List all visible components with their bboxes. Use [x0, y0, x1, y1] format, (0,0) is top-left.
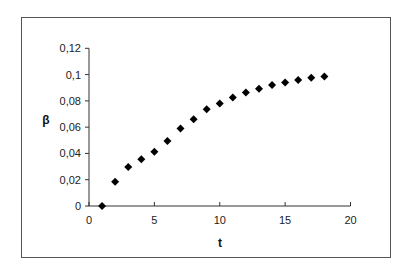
x-tick-label: 0 [86, 214, 92, 226]
y-tick-label: 0,08 [60, 95, 81, 107]
y-tick-label: 0,04 [60, 147, 81, 159]
data-points [98, 72, 328, 210]
diamond-marker [268, 81, 276, 89]
diamond-marker [216, 99, 224, 107]
diamond-marker [307, 74, 315, 82]
diamond-marker [190, 115, 198, 123]
diamond-marker [242, 88, 250, 96]
x-tick-label: 15 [279, 214, 291, 226]
y-tick-label: 0,12 [60, 42, 81, 54]
diamond-marker [255, 85, 263, 93]
diamond-marker [137, 155, 145, 163]
axes [89, 48, 351, 206]
diamond-marker [203, 105, 211, 113]
diamond-marker [320, 72, 328, 80]
y-axis-title: β [42, 113, 49, 127]
diamond-marker [111, 178, 119, 186]
scatter-chart: 00,020,040,060,080,10,12 05101520 β t [0, 0, 411, 274]
diamond-marker [229, 93, 237, 101]
y-axis-ticks: 00,020,040,060,080,10,12 [60, 42, 89, 212]
diamond-marker [163, 137, 171, 145]
diamond-marker [98, 202, 106, 210]
x-tick-label: 20 [344, 214, 356, 226]
y-tick-label: 0,1 [66, 69, 81, 81]
x-axis-title: t [218, 236, 222, 250]
diamond-marker [124, 163, 132, 171]
diamond-marker [294, 76, 302, 84]
x-tick-label: 5 [151, 214, 157, 226]
y-tick-label: 0,06 [60, 121, 81, 133]
y-tick-label: 0,02 [60, 174, 81, 186]
diamond-marker [177, 124, 185, 132]
diamond-marker [281, 78, 289, 86]
x-tick-label: 10 [214, 214, 226, 226]
y-tick-label: 0 [75, 200, 81, 212]
diamond-marker [150, 148, 158, 156]
